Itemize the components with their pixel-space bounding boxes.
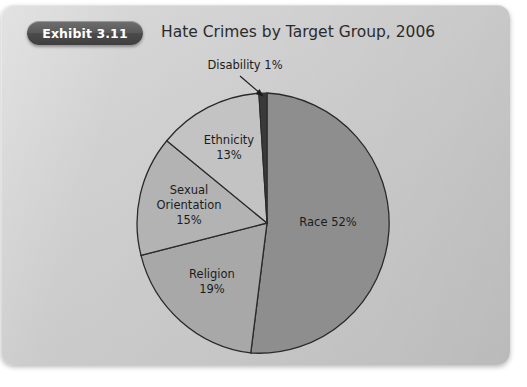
pie-label-religion-pct: 19% — [174, 282, 250, 297]
pie-label-religion-name: Religion — [189, 267, 235, 281]
pie-label-sexual-line1: Sexual — [170, 183, 209, 197]
pie-label-sexual-line2: Orientation — [143, 198, 235, 213]
pie-label-ethnicity-pct: 13% — [191, 148, 267, 163]
pie-chart-figure: Disability 1% Ethnicity 13% Sexual Orien… — [1, 5, 510, 365]
pie-label-race: Race 52% — [282, 215, 374, 230]
pie-label-disability: Disability 1% — [193, 58, 297, 73]
pie-label-sexual-orientation: Sexual Orientation 15% — [143, 183, 235, 228]
pie-label-sexual-pct: 15% — [143, 213, 235, 228]
pie-label-ethnicity-name: Ethnicity — [204, 133, 254, 147]
pie-label-religion: Religion 19% — [174, 267, 250, 297]
exhibit-card: Exhibit 3.11 Hate Crimes by Target Group… — [1, 5, 510, 365]
pie-label-ethnicity: Ethnicity 13% — [191, 133, 267, 163]
